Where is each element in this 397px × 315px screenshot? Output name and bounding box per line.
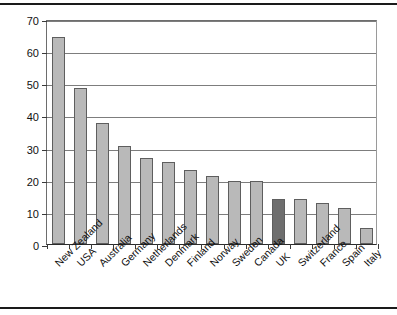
- figure: 010203040506070 New ZealandUSAAustraliaG…: [0, 0, 397, 315]
- x-tick: [47, 244, 48, 249]
- y-tick-70: [42, 21, 47, 22]
- x-tick: [378, 244, 379, 249]
- bar: [360, 228, 373, 244]
- y-axis-label: 70: [27, 16, 39, 27]
- y-axis-label: 50: [27, 80, 39, 91]
- plot-area: 010203040506070: [46, 20, 377, 245]
- bar: [206, 176, 219, 244]
- y-tick-20: [42, 182, 47, 183]
- chart-plot-wrapper: 010203040506070 New ZealandUSAAustraliaG…: [0, 8, 397, 308]
- y-tick-50: [42, 85, 47, 86]
- bar: [228, 181, 241, 244]
- y-axis-label: 60: [27, 48, 39, 59]
- gridline-40: [47, 117, 376, 118]
- x-axis-labels: New ZealandUSAAustraliaGermanyNetherland…: [46, 252, 377, 315]
- y-axis-label: 10: [27, 208, 39, 219]
- bar: [118, 146, 131, 244]
- gridline-50: [47, 85, 376, 86]
- gridline-70: [47, 21, 376, 22]
- bar: [294, 199, 307, 244]
- top-divider-rule: [0, 3, 397, 5]
- x-tick: [290, 244, 291, 249]
- bar: [52, 37, 65, 244]
- x-axis-label: UK: [274, 251, 292, 269]
- y-axis-label: 30: [27, 144, 39, 155]
- bar: [74, 88, 87, 244]
- y-axis-label: 20: [27, 176, 39, 187]
- y-axis-label: 40: [27, 112, 39, 123]
- y-tick-10: [42, 214, 47, 215]
- y-axis-label: 0: [33, 241, 39, 252]
- y-tick-40: [42, 117, 47, 118]
- gridline-60: [47, 53, 376, 54]
- y-tick-60: [42, 53, 47, 54]
- y-tick-30: [42, 150, 47, 151]
